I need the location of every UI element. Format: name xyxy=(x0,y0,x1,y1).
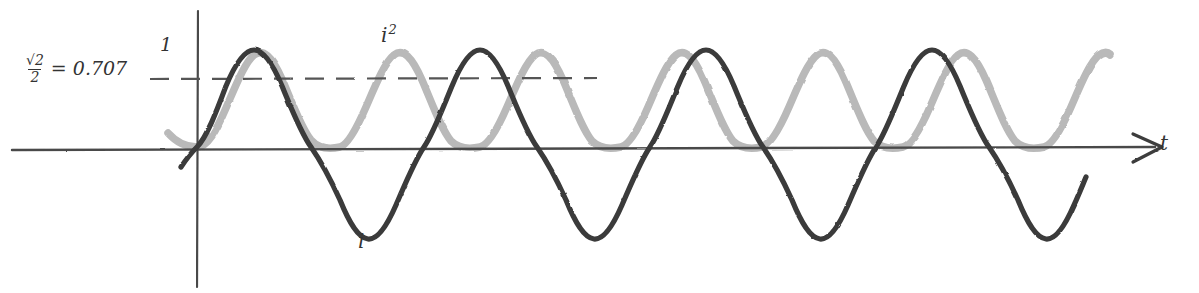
fraction-numerator: √2 xyxy=(24,53,46,68)
level-line-rms xyxy=(150,78,597,79)
label-curve-i-squared: i2 xyxy=(381,22,397,47)
hand-drawn-waveform-figure: 1 √2 2 = 0.707 i2 i t xyxy=(0,0,1199,293)
label-curve-i: i xyxy=(358,229,364,253)
label-i-squared-exponent: 2 xyxy=(388,22,396,37)
fraction-denominator: 2 xyxy=(28,69,41,85)
label-rms-value: √2 2 = 0.707 xyxy=(24,52,127,83)
rms-equals-text: = 0.707 xyxy=(51,57,127,79)
label-amplitude-one: 1 xyxy=(160,33,172,55)
fraction-sqrt2-over-2: √2 2 xyxy=(24,53,46,84)
waveform-plot-svg xyxy=(0,0,1199,293)
label-i-squared-base: i xyxy=(381,23,387,47)
label-t-axis: t xyxy=(1160,131,1168,155)
